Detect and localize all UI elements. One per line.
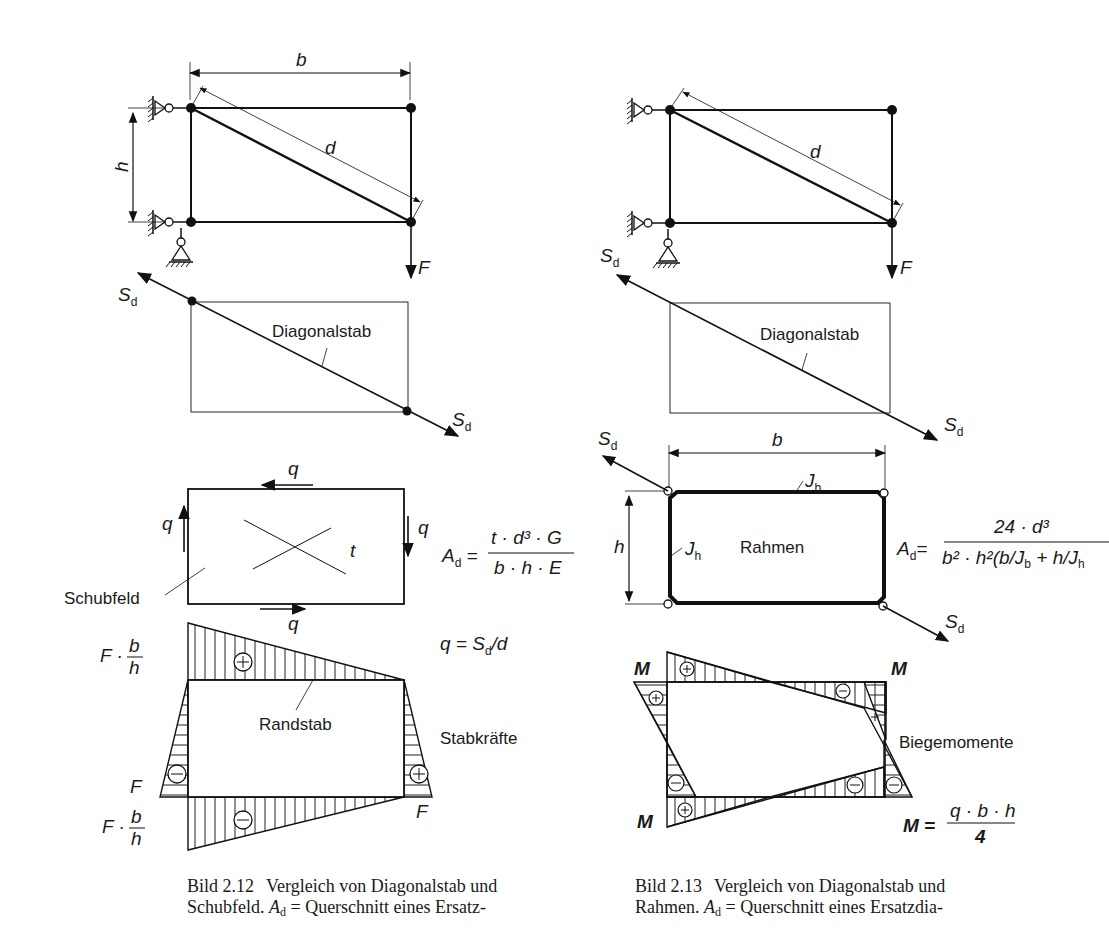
moment-M-label: M xyxy=(637,811,654,832)
formula-q: q = Sd/d xyxy=(440,633,509,658)
thickness-t-label: t xyxy=(350,540,356,561)
formula-Ad-shear: Ad = t · d³ · G b · h · E xyxy=(441,527,574,578)
plus-sign-icon xyxy=(234,653,252,671)
svg-text:M =: M = xyxy=(903,815,935,836)
left-figure: b h d F xyxy=(64,49,574,850)
bending-moments-diagram: M M M Biegemomente M = q · b · h 4 xyxy=(634,652,1015,847)
dim-d-label: d xyxy=(810,141,822,162)
minus-sign-icon xyxy=(886,777,902,793)
force-Sd-label: Sd xyxy=(600,245,619,270)
caption-line: Rahmen. xyxy=(635,897,700,917)
bending-moments-title: Biegemomente xyxy=(899,733,1013,752)
frame-label: Rahmen xyxy=(740,538,804,557)
bar-forces-diagram: Randstab Stabkräfte F · b h F F F · b h xyxy=(100,623,518,850)
bar-forces-title: Stabkräfte xyxy=(440,729,518,748)
dim-b-label: b xyxy=(296,49,307,70)
svg-text:b² · h²(b/Jb + h/Jh: b² · h²(b/Jb + h/Jh xyxy=(942,547,1085,571)
minus-sign-icon xyxy=(168,765,186,783)
dim-b-label: b xyxy=(772,429,783,450)
value-F-b-h-bottom: F · b h xyxy=(102,806,145,849)
force-Sd-label: Sd xyxy=(944,414,963,439)
left-truss: b h d F xyxy=(111,49,431,278)
minus-sign-icon xyxy=(847,777,863,793)
svg-text:b: b xyxy=(131,806,142,827)
engineering-figure: b h d F xyxy=(0,0,1109,929)
edge-member-label: Randstab xyxy=(259,715,332,734)
svg-text:b · h · E: b · h · E xyxy=(494,557,562,578)
shear-flow-q-label: q xyxy=(162,513,173,534)
value-F-b-h-top: F · b h xyxy=(100,635,143,678)
symbol-A: A xyxy=(269,897,280,917)
shear-flow-q-label: q xyxy=(288,613,299,634)
rigid-frame: b h Sd Sd Jb Jh Rahmen Ad= 24 · d³ xyxy=(598,428,1109,641)
caption-bild-2-12: Bild 2.12Vergleich von Diagonalstab und … xyxy=(187,876,497,923)
dim-d-label: d xyxy=(325,137,337,158)
svg-text:b: b xyxy=(129,635,140,656)
caption-line: Schubfeld. xyxy=(187,897,264,917)
dim-h-label: h xyxy=(111,161,132,172)
svg-text:24 · d³: 24 · d³ xyxy=(993,516,1050,537)
minus-sign-icon xyxy=(668,775,684,791)
svg-text:h: h xyxy=(129,657,140,678)
value-F-left: F xyxy=(130,776,143,797)
diagonal-member-label: Diagonalstab xyxy=(272,322,371,341)
caption-line: Vergleich von Diagonalstab und xyxy=(714,876,945,896)
pin-support-icon xyxy=(627,211,670,237)
pin-support-icon xyxy=(148,210,191,236)
svg-text:q · b · h: q · b · h xyxy=(950,800,1015,821)
formula-Ad-frame: Ad= 24 · d³ b² · h²(b/Jb + h/Jh xyxy=(896,516,1109,571)
force-Sd-label: Sd xyxy=(452,409,471,434)
plus-sign-icon xyxy=(678,803,692,817)
formula-M: M = q · b · h 4 xyxy=(903,800,1015,847)
caption-line: = Querschnitt eines Ersatzdia- xyxy=(726,897,944,917)
plus-sign-icon xyxy=(649,691,663,705)
svg-text:t · d³ · G: t · d³ · G xyxy=(491,527,562,548)
figure-number: Bild 2.13 xyxy=(635,876,702,896)
roller-support-icon xyxy=(166,228,193,267)
left-diagonal-member: Diagonalstab Sd Sd xyxy=(118,273,471,436)
minus-sign-icon xyxy=(836,684,850,698)
caption-bild-2-13: Bild 2.13Vergleich von Diagonalstab und … xyxy=(635,876,945,923)
roller-support-icon xyxy=(653,229,680,268)
minus-sign-icon xyxy=(234,811,252,829)
plus-sign-icon xyxy=(680,662,694,676)
pin-support-icon xyxy=(627,98,670,124)
shear-flow-q-label: q xyxy=(288,458,299,479)
moment-M-label: M xyxy=(891,658,908,679)
right-truss: d F xyxy=(627,88,913,278)
shear-field: t q q q q Schubfeld Ad = t · d³ · G b · … xyxy=(64,458,574,658)
caption-line: = Querschnitt eines Ersatz- xyxy=(290,897,486,917)
shear-field-label: Schubfeld xyxy=(64,589,140,608)
pin-support-icon xyxy=(148,96,191,122)
svg-text:F ·: F · xyxy=(102,816,125,837)
symbol-A: A xyxy=(704,897,715,917)
diagonal-member-label: Diagonalstab xyxy=(760,325,859,344)
force-Sd-label: Sd xyxy=(118,284,137,309)
value-F-right: F xyxy=(416,801,429,822)
svg-text:F ·: F · xyxy=(100,645,123,666)
caption-line: Vergleich von Diagonalstab und xyxy=(266,876,497,896)
plus-sign-icon xyxy=(410,765,428,783)
force-Sd-label: Sd xyxy=(945,611,964,636)
svg-text:Ad=: Ad= xyxy=(896,538,927,563)
subscript: d xyxy=(280,905,286,919)
load-F-label: F xyxy=(900,257,913,278)
svg-text:4: 4 xyxy=(974,826,986,847)
svg-text:Ad =: Ad = xyxy=(441,545,478,570)
dim-h-label: h xyxy=(614,536,625,557)
load-F-label: F xyxy=(418,257,431,278)
inertia-Jh-label: Jh xyxy=(684,538,701,563)
moment-M-label: M xyxy=(634,658,651,679)
force-Sd-label: Sd xyxy=(598,428,617,453)
figure-number: Bild 2.12 xyxy=(187,876,254,896)
right-figure: d F Diagonalstab Sd Sd b h xyxy=(598,88,1109,847)
shear-flow-q-label: q xyxy=(418,517,429,538)
svg-text:h: h xyxy=(131,828,142,849)
subscript: d xyxy=(715,905,721,919)
